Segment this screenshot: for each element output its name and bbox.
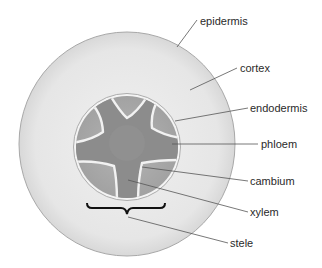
label-xylem: xylem (250, 206, 279, 218)
label-epidermis: epidermis (200, 15, 248, 27)
label-phloem: phloem (261, 138, 297, 150)
label-cambium: cambium (250, 175, 295, 187)
epidermis-leader (177, 20, 197, 47)
root-cross-section-diagram: epidermis cortex endodermis phloem cambi… (0, 0, 322, 268)
label-cortex: cortex (240, 62, 270, 74)
label-endodermis: endodermis (250, 102, 308, 114)
label-stele: stele (230, 237, 253, 249)
